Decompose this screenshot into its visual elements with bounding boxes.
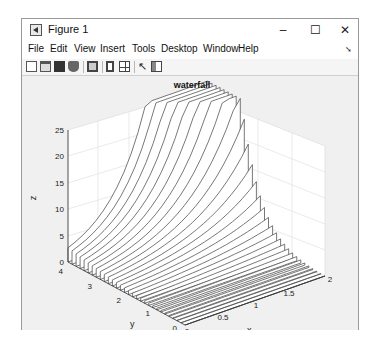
svg-text:0: 0: [185, 327, 190, 330]
svg-text:5: 5: [60, 232, 65, 241]
svg-text:10: 10: [55, 205, 64, 214]
figure-toolbar: ↖: [22, 59, 358, 76]
menu-edit[interactable]: Edit: [50, 43, 67, 54]
matlab-figure-icon: [30, 24, 42, 36]
menu-help[interactable]: Help: [238, 43, 259, 54]
open-file-icon[interactable]: [40, 61, 51, 72]
menu-window[interactable]: Window: [203, 43, 239, 54]
menu-insert[interactable]: Insert: [100, 43, 125, 54]
print-icon[interactable]: [68, 61, 79, 72]
svg-text:3: 3: [88, 282, 93, 291]
menu-view[interactable]: View: [74, 43, 96, 54]
svg-text:20: 20: [55, 152, 64, 161]
save-icon[interactable]: [54, 61, 65, 72]
toolbar-separator: [134, 61, 135, 73]
svg-text:0: 0: [60, 258, 65, 267]
menu-bar: File Edit View Insert Tools Desktop Wind…: [22, 41, 358, 59]
dock-arrow-icon[interactable]: ➘: [345, 45, 352, 54]
window-title: Figure 1: [48, 23, 88, 35]
svg-text:2: 2: [117, 296, 122, 305]
svg-text:1: 1: [254, 301, 259, 310]
svg-text:15: 15: [55, 179, 64, 188]
menu-file[interactable]: File: [28, 43, 44, 54]
svg-text:1.5: 1.5: [283, 289, 295, 298]
colorbar-icon[interactable]: [106, 61, 114, 72]
title-bar[interactable]: Figure 1 – ☐ ✕: [22, 19, 358, 41]
figure-canvas[interactable]: waterfall 0 5 10 15 20 25 z 4 3 2 1 0 y …: [22, 76, 358, 330]
menu-desktop[interactable]: Desktop: [161, 43, 198, 54]
link-plot-icon[interactable]: [87, 61, 98, 72]
z-axis-label: z: [28, 195, 38, 200]
waterfall-plot[interactable]: waterfall 0 5 10 15 20 25 z 4 3 2 1 0 y …: [22, 76, 360, 330]
menu-tools[interactable]: Tools: [132, 43, 155, 54]
maximize-button[interactable]: ☐: [304, 21, 326, 39]
y-axis-label: y: [130, 319, 135, 329]
figure-window: Figure 1 – ☐ ✕ File Edit View Insert Too…: [21, 18, 359, 330]
new-figure-icon[interactable]: [26, 61, 37, 72]
svg-text:2: 2: [328, 275, 333, 284]
x-axis-label: x: [247, 325, 252, 330]
close-button[interactable]: ✕: [334, 21, 356, 39]
legend-icon[interactable]: [119, 61, 130, 72]
toolbar-separator: [102, 61, 103, 73]
property-inspector-icon[interactable]: [151, 61, 162, 72]
svg-text:0: 0: [173, 324, 178, 330]
svg-text:1: 1: [146, 309, 151, 318]
svg-text:4: 4: [59, 267, 64, 276]
minimize-button[interactable]: –: [272, 21, 294, 39]
svg-text:25: 25: [55, 126, 64, 135]
toolbar-separator: [83, 61, 84, 73]
svg-text:0.5: 0.5: [217, 313, 229, 322]
z-tick-labels: 0 5 10 15 20 25: [55, 126, 64, 267]
edit-plot-cursor-icon[interactable]: ↖: [138, 61, 149, 72]
chart-title: waterfall: [173, 80, 211, 90]
